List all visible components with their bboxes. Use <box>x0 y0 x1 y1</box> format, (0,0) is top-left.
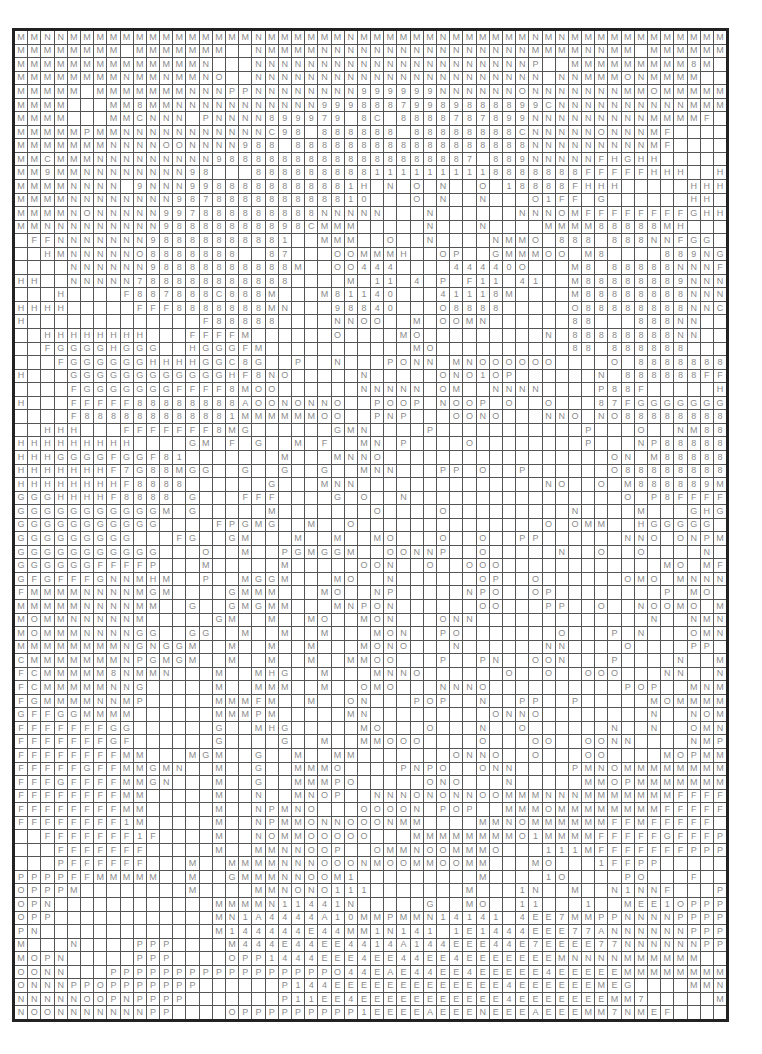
grid-row: FFFFFFF1FMNOMMOOOOOMMMMMMMMO1MMMMFFFFFGF… <box>14 830 728 844</box>
grid-cell <box>700 315 713 329</box>
grid-cell <box>318 301 331 315</box>
grid-cell: F <box>120 735 133 749</box>
grid-cell: F <box>14 762 28 776</box>
grid-cell <box>568 640 581 654</box>
grid-cell: F <box>107 776 120 790</box>
grid-cell: N <box>437 58 450 72</box>
grid-cell: G <box>146 505 159 519</box>
grid-cell: H <box>41 478 54 492</box>
grid-cell <box>291 654 304 668</box>
grid-cell: M <box>397 329 410 343</box>
grid-cell: M <box>713 599 727 613</box>
grid-cell: N <box>14 1006 28 1021</box>
grid-cell: G <box>212 735 225 749</box>
grid-cell: N <box>687 315 700 329</box>
grid-cell: 4 <box>305 898 318 912</box>
grid-cell <box>173 545 186 559</box>
grid-cell: M <box>305 776 318 790</box>
grid-cell: 4 <box>384 261 397 275</box>
grid-cell <box>410 748 423 762</box>
grid-cell <box>542 450 555 464</box>
grid-cell <box>489 180 502 194</box>
grid-cell: M <box>28 98 41 112</box>
grid-cell <box>489 694 502 708</box>
grid-cell: F <box>674 789 687 803</box>
grid-cell: M <box>648 139 661 153</box>
grid-cell: N <box>463 44 476 58</box>
grid-cell: N <box>331 356 344 370</box>
grid-cell: 7 <box>582 925 595 939</box>
grid-cell: M <box>450 843 463 857</box>
grid-cell: F <box>80 870 93 884</box>
grid-cell: M <box>674 952 687 966</box>
grid-cell <box>687 139 700 153</box>
grid-cell <box>173 748 186 762</box>
grid-cell <box>318 247 331 261</box>
grid-cell: M <box>212 30 225 45</box>
grid-cell: M <box>661 71 674 85</box>
grid-row: FGGGGGGHHHHGGC8GPNPONNMNOOOOOOO8888888 <box>14 356 728 370</box>
grid-cell <box>305 735 318 749</box>
grid-cell: M <box>265 654 278 668</box>
grid-cell: O <box>384 396 397 410</box>
grid-cell <box>700 125 713 139</box>
grid-cell <box>476 234 489 248</box>
grid-cell <box>423 450 436 464</box>
grid-cell <box>437 356 450 370</box>
grid-cell: 9 <box>674 274 687 288</box>
grid-cell: N <box>107 261 120 275</box>
grid-cell <box>67 288 80 302</box>
grid-cell <box>199 830 212 844</box>
grid-cell <box>450 586 463 600</box>
grid-cell: N <box>199 71 212 85</box>
grid-cell <box>186 681 199 695</box>
grid-cell <box>555 613 568 627</box>
grid-cell: 8 <box>516 180 529 194</box>
grid-cell: G <box>28 518 41 532</box>
grid-cell: N <box>120 234 133 248</box>
grid-cell <box>423 274 436 288</box>
grid-cell: N <box>674 925 687 939</box>
grid-cell <box>582 369 595 383</box>
grid-cell: 4 <box>331 925 344 939</box>
grid-cell: 8 <box>700 423 713 437</box>
grid-cell: O <box>542 803 555 817</box>
grid-cell: N <box>67 220 80 234</box>
grid-cell: G <box>252 356 265 370</box>
grid-cell: M <box>173 30 186 45</box>
grid-cell <box>291 599 304 613</box>
grid-cell <box>529 505 542 519</box>
grid-cell <box>568 423 581 437</box>
grid-cell <box>555 572 568 586</box>
grid-cell <box>212 1006 225 1021</box>
grid-cell: M <box>120 58 133 72</box>
grid-cell: F <box>28 735 41 749</box>
grid-cell: N <box>239 125 252 139</box>
grid-cell <box>305 505 318 519</box>
grid-row: MMMMMNNNNMMGGMGMMMNPONOOPPONOOMOM <box>14 599 728 613</box>
grid-cell <box>173 884 186 898</box>
grid-cell: M <box>94 654 107 668</box>
grid-cell: P <box>648 437 661 451</box>
grid-cell: N <box>476 748 489 762</box>
grid-cell <box>674 505 687 519</box>
grid-cell: P <box>199 112 212 126</box>
grid-cell: N <box>608 925 621 939</box>
grid-cell: N <box>384 613 397 627</box>
grid-cell: N <box>502 816 515 830</box>
grid-cell <box>14 342 28 356</box>
grid-row: NNNNNN98888888888MOO44444440OM888888NNNF <box>14 261 728 275</box>
grid-cell: G <box>621 152 634 166</box>
grid-cell <box>661 979 674 993</box>
grid-cell: 8 <box>634 369 647 383</box>
grid-cell: M <box>687 423 700 437</box>
grid-cell: P <box>278 545 291 559</box>
grid-cell <box>489 803 502 817</box>
grid-cell <box>160 884 173 898</box>
grid-cell: M <box>661 58 674 72</box>
grid-cell: N <box>252 44 265 58</box>
grid-cell: N <box>397 58 410 72</box>
grid-cell: 8 <box>226 220 239 234</box>
grid-cell <box>54 396 67 410</box>
grid-cell: M <box>344 748 357 762</box>
